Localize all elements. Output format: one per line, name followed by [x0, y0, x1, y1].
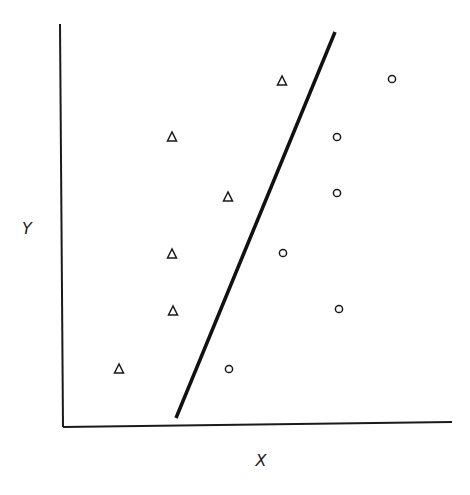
- y-axis-label: Y: [22, 219, 32, 238]
- triangle-marker: [169, 306, 178, 315]
- circle-marker: [335, 305, 342, 312]
- x-axis-label: X: [256, 451, 267, 470]
- x-axis: [63, 422, 452, 427]
- circle-marker: [333, 189, 340, 196]
- triangle-marker: [278, 76, 287, 85]
- triangle-marker: [168, 249, 177, 258]
- decision-boundary-line: [176, 32, 335, 418]
- circle-marker: [225, 365, 232, 372]
- y-axis: [60, 24, 63, 427]
- circle-marker: [333, 133, 340, 140]
- circle-marker: [388, 75, 395, 82]
- scatter-plot: [0, 0, 470, 495]
- triangle-marker: [115, 364, 124, 373]
- circle-marker: [279, 249, 286, 256]
- triangle-marker: [168, 132, 177, 141]
- triangle-marker: [224, 192, 233, 201]
